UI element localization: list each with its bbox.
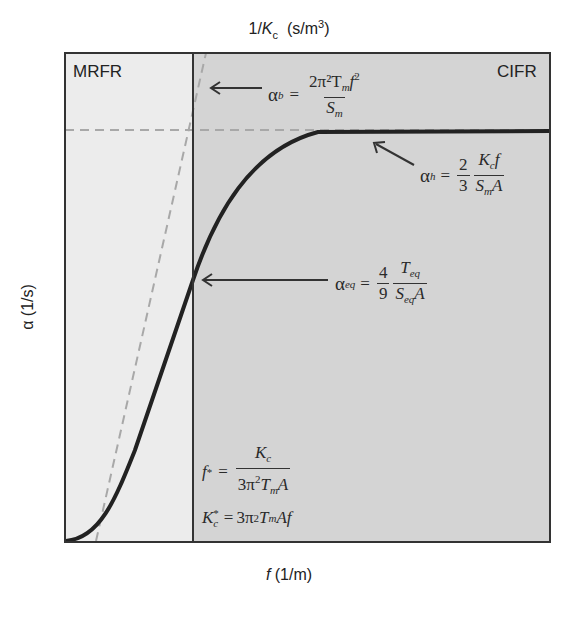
top-axis-k: K <box>262 20 273 37</box>
eq-sign: = <box>440 166 450 186</box>
eq-num: T <box>400 258 409 277</box>
eq-num-sub: eq <box>410 267 420 279</box>
eq-den: S <box>326 98 335 117</box>
x-axis-unit: (1/m) <box>270 566 312 583</box>
eq-coef: 4 9 <box>377 263 390 304</box>
alpha-b-equation: αb = 2π²Tmf2 Sm <box>268 66 364 123</box>
eq-lhs-sub: h <box>430 170 436 182</box>
alpha-h-equation: αh = 2 3 Kcf SmA <box>420 150 506 202</box>
y-axis-unit: (1/s) <box>19 284 36 320</box>
eq-den-sub: m <box>484 186 492 198</box>
eq-coef: 2 3 <box>457 155 470 196</box>
eq-lhs-sub: b <box>278 89 284 101</box>
eq-coef-num: 4 <box>377 263 390 283</box>
cifr-label: CIFR <box>497 62 537 82</box>
eq-fraction: Kc 3π2TmA <box>236 443 290 500</box>
mrfr-label: MRFR <box>73 62 122 82</box>
eq-num: K <box>255 443 266 462</box>
eq-num-sub: m <box>342 81 350 93</box>
eq-sign: = <box>218 462 228 482</box>
eq-num: K <box>479 150 490 169</box>
eq-den-a: A <box>492 176 502 195</box>
eq-rhs-pre: 3π <box>236 508 253 528</box>
eq-den-sub: m <box>270 484 278 496</box>
eq-den-a: A <box>278 475 288 494</box>
top-axis-label: 1/Kc (s/m3) <box>0 18 578 41</box>
eq-lhs: α <box>420 165 430 187</box>
eq-den: S <box>476 176 485 195</box>
eq-num: 2π²T <box>309 72 342 91</box>
eq-den-sub: m <box>335 107 343 119</box>
y-axis-symbol: α <box>19 321 36 330</box>
y-axis-label: α (1/s) <box>19 257 37 357</box>
eq-den-pre: 3π <box>238 475 255 494</box>
f-star-equation: f* = Kc 3π2TmA <box>202 443 292 500</box>
eq-fraction: 2π²Tmf2 Sm <box>307 66 362 123</box>
eq-fraction: Teq SeqA <box>393 258 426 310</box>
eq-num-f: f <box>495 150 500 169</box>
eq-coef-num: 2 <box>457 155 470 175</box>
eq-rhs-t: T <box>259 508 268 528</box>
eq-num-sup: 2 <box>354 70 360 82</box>
eq-den: S <box>395 284 404 303</box>
eq-lhs: α <box>268 84 278 106</box>
eq-lhs-sub: c <box>213 518 219 528</box>
eq-den-t: T <box>260 475 269 494</box>
eq-rhs-post: Af <box>276 508 291 528</box>
eq-den-sub: eq <box>404 294 414 306</box>
x-axis-label: f (1/m) <box>0 566 578 584</box>
eq-sign: = <box>224 508 234 528</box>
top-axis-unit: (s/m <box>278 20 318 37</box>
eq-coef-den: 9 <box>377 283 390 304</box>
eq-lhs: K <box>202 508 213 528</box>
eq-den-a: A <box>414 284 424 303</box>
alpha-eq-equation: αeq = 4 9 Teq SeqA <box>335 258 429 310</box>
eq-sign: = <box>289 85 299 105</box>
eq-fraction: Kcf SmA <box>474 150 505 202</box>
eq-sign: = <box>360 274 370 294</box>
top-axis-close: ) <box>324 20 329 37</box>
eq-lhs-sup: * <box>207 466 213 478</box>
eq-lhs-sub: eq <box>345 278 355 290</box>
eq-coef-den: 3 <box>457 175 470 196</box>
eq-num-sub: c <box>266 452 271 464</box>
top-axis-pre: 1/ <box>249 20 262 37</box>
eq-lhs: α <box>335 273 345 295</box>
kc-star-equation: K*c = 3π2TmAf <box>202 508 292 528</box>
